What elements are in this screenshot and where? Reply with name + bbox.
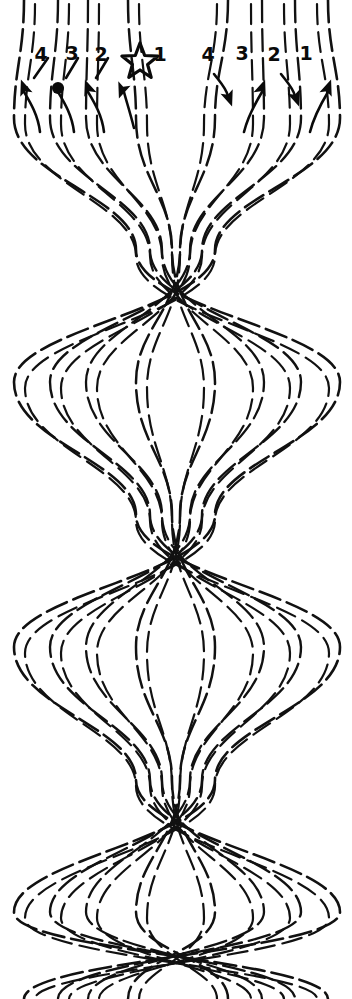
arrow-head — [113, 81, 131, 100]
strand-label-left-3: 3 — [65, 42, 78, 64]
diagram-canvas: 43214321 — [0, 0, 352, 999]
braid-strand — [25, 4, 329, 999]
strand-label-right-3: 3 — [235, 42, 248, 64]
arrow-layer — [15, 58, 337, 132]
strand-label-left-2: 2 — [94, 43, 107, 65]
arrow-head-blob — [52, 82, 64, 94]
braid-strand — [25, 4, 329, 999]
strand-arrow-left-2 — [79, 77, 104, 132]
braid-diagram: 43214321 — [0, 0, 352, 999]
strand-arrow-right-1 — [310, 77, 337, 132]
strand-arrow-right-3 — [244, 77, 271, 132]
braid-strand — [50, 0, 301, 999]
arrow-tail — [310, 92, 328, 132]
strand-arrow-left-1 — [113, 81, 134, 128]
strand-arrow-left-3 — [52, 82, 74, 132]
braid-strand — [50, 0, 301, 999]
arrow-head — [220, 89, 238, 108]
strand-label-right-4: 4 — [201, 43, 214, 65]
strand-label-right-1: 1 — [299, 42, 312, 64]
arrow-tail — [124, 92, 134, 128]
strand-layer — [14, 0, 340, 999]
strand-label-left-1: 1 — [153, 43, 166, 65]
strand-number-labels: 43214321 — [34, 42, 312, 65]
strand-label-left-4: 4 — [34, 43, 47, 65]
arrow-tail — [24, 92, 40, 132]
strand-arrow-left-4 — [15, 77, 40, 132]
strand-label-right-2: 2 — [267, 43, 280, 65]
